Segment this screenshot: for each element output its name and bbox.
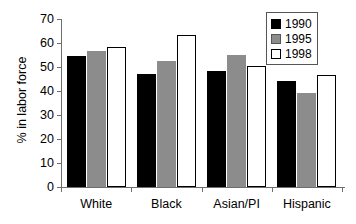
- bar-hispanic-1990: [277, 81, 296, 187]
- y-axis-tick-label: 0: [28, 181, 54, 193]
- legend-label: 1998: [285, 48, 312, 60]
- bar-black-1995: [157, 61, 176, 187]
- y-axis-tick-label: 10: [28, 157, 54, 169]
- bar-asian-pi-1990: [207, 71, 226, 187]
- legend-item-1995: 1995: [271, 31, 312, 46]
- x-axis-line: [61, 187, 345, 188]
- legend-label: 1995: [285, 33, 312, 45]
- bar-black-1998: [177, 35, 196, 187]
- legend-swatch-icon: [271, 34, 281, 44]
- x-axis-tick-mark: [342, 188, 343, 192]
- bar-group-black: [137, 19, 196, 187]
- x-axis-tick-mark: [61, 188, 62, 192]
- legend-item-1998: 1998: [271, 46, 312, 61]
- y-axis-tick-label: 30: [28, 109, 54, 121]
- x-axis-tick-mark: [131, 188, 132, 192]
- y-axis-tick-label: 50: [28, 61, 54, 73]
- y-axis-tick-label: 60: [28, 37, 54, 49]
- bar-group-white: [67, 19, 126, 187]
- category-label-asian-pi: Asian/PI: [202, 196, 272, 212]
- bar-asian-pi-1995: [227, 55, 246, 187]
- bar-group-asian-pi: [207, 19, 266, 187]
- bar-white-1998: [107, 47, 126, 187]
- category-label-black: Black: [131, 196, 201, 212]
- y-axis-tick-label: 40: [28, 85, 54, 97]
- chart-legend: 199019951998: [266, 12, 318, 65]
- bar-hispanic-1998: [317, 75, 336, 187]
- bar-chart: % in labor force 010203040506070 WhiteBl…: [0, 0, 356, 224]
- x-axis-tick-mark: [202, 188, 203, 192]
- legend-swatch-icon: [271, 19, 281, 29]
- y-axis-tick-label: 20: [28, 133, 54, 145]
- legend-swatch-icon: [271, 49, 281, 59]
- bar-white-1995: [87, 51, 106, 187]
- y-axis-tick-label: 70: [28, 13, 54, 25]
- category-label-white: White: [61, 196, 131, 212]
- bar-asian-pi-1998: [247, 66, 266, 187]
- category-label-hispanic: Hispanic: [272, 196, 342, 212]
- y-axis-tick-labels: 010203040506070: [28, 0, 54, 224]
- legend-label: 1990: [285, 18, 312, 30]
- bar-black-1990: [137, 74, 156, 187]
- bar-hispanic-1995: [297, 93, 316, 187]
- x-axis-tick-mark: [272, 188, 273, 192]
- bar-white-1990: [67, 56, 86, 187]
- legend-item-1990: 1990: [271, 16, 312, 31]
